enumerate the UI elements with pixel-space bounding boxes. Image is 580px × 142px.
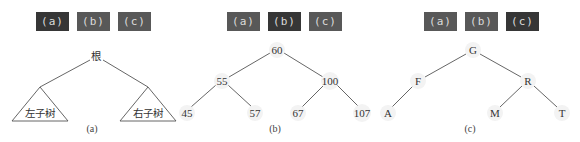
tree-node: T bbox=[559, 107, 566, 119]
tree-node: M bbox=[490, 107, 500, 119]
edge bbox=[534, 86, 557, 107]
caption-c: (c) bbox=[464, 123, 475, 135]
edge bbox=[425, 54, 466, 77]
tree-node: A bbox=[384, 107, 392, 119]
binary-search-tree-letters: G F R A M T (c) bbox=[0, 0, 580, 142]
edge bbox=[480, 54, 521, 77]
edge bbox=[500, 86, 522, 107]
edge bbox=[392, 86, 413, 107]
panel-c: (a) (b) (c) G F R A M T (c) bbox=[0, 0, 580, 142]
tree-node: F bbox=[415, 75, 421, 87]
tree-node: R bbox=[524, 75, 532, 87]
tree-node: G bbox=[469, 44, 477, 56]
